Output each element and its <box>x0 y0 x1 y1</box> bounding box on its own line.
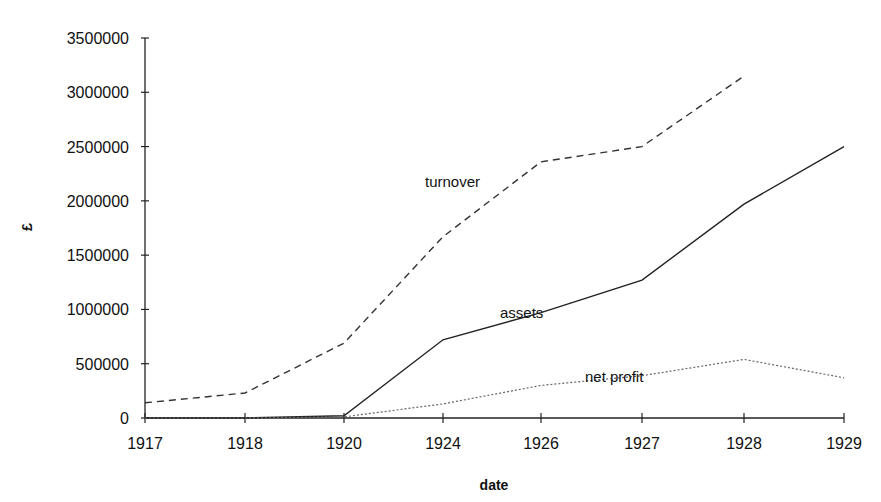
y-tick-label: 500000 <box>76 356 129 373</box>
x-tick-label: 1917 <box>127 435 163 452</box>
x-tick-label: 1929 <box>826 435 862 452</box>
y-tick-label: 1500000 <box>67 247 129 264</box>
y-axis-title: £ <box>19 223 35 231</box>
y-tick-label: 2000000 <box>67 193 129 210</box>
series-lines <box>145 76 844 418</box>
x-axis-title: date <box>480 477 509 493</box>
y-axis: 0500000100000015000002000000250000030000… <box>67 30 149 427</box>
y-tick-label: 2500000 <box>67 139 129 156</box>
x-tick-label: 1924 <box>425 435 461 452</box>
x-tick-label: 1920 <box>326 435 362 452</box>
series-line-assets <box>145 147 844 418</box>
x-tick-label: 1918 <box>227 435 263 452</box>
y-tick-label: 3500000 <box>67 30 129 47</box>
series-label-assets: assets <box>500 304 543 321</box>
line-chart: 0500000100000015000002000000250000030000… <box>0 0 881 502</box>
y-tick-label: 1000000 <box>67 301 129 318</box>
series-labels: turnoverassetsnet profit <box>425 173 644 385</box>
x-axis: 19171918192019241926192719281929 <box>127 413 862 452</box>
x-tick-label: 1927 <box>624 435 660 452</box>
series-label-net-profit: net profit <box>585 368 644 385</box>
series-label-turnover: turnover <box>425 173 480 190</box>
y-tick-label: 3000000 <box>67 84 129 101</box>
series-line-net-profit <box>145 359 844 418</box>
series-line-turnover <box>145 76 744 403</box>
x-tick-label: 1928 <box>726 435 762 452</box>
y-tick-label: 0 <box>120 410 129 427</box>
x-tick-label: 1926 <box>523 435 559 452</box>
